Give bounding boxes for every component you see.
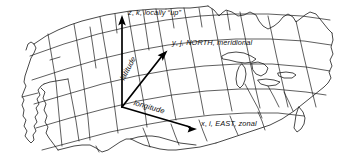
- great-lakes-and-northeast-border: [208, 6, 332, 88]
- graticule-parallels: [30, 14, 331, 150]
- map-figure: z, k, locally “up” y, j, NORTH, meridion…: [0, 0, 343, 162]
- y-axis-label: y, j, NORTH, meridional: [172, 38, 252, 47]
- x-axis-arrowhead: [186, 126, 197, 133]
- x-axis-label-rest: , EAST, zonal: [211, 119, 257, 128]
- map-drawing: [0, 0, 343, 162]
- z-axis-label-rest: , locally “up”: [140, 8, 181, 17]
- x-axis-label: x, i, EAST, zonal: [201, 119, 257, 128]
- y-axis-label-rest: , NORTH, meridional: [182, 38, 252, 47]
- z-axis-label: z, k, locally “up”: [128, 8, 181, 17]
